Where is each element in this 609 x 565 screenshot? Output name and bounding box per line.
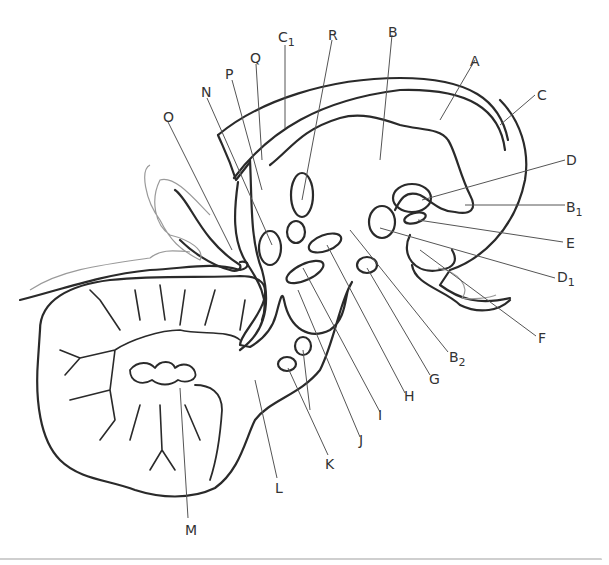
label-P: P [225, 67, 233, 81]
label-text: H [404, 388, 415, 404]
label-text: C [537, 87, 547, 103]
cerebellum-outline [37, 276, 352, 497]
label-text: O [163, 109, 174, 125]
label-C: C [537, 88, 547, 102]
label-text: K [325, 456, 334, 472]
label-text: M [185, 522, 197, 538]
label-C1: C1 [278, 30, 295, 48]
label-text: B [566, 199, 576, 215]
label-subscript: 1 [568, 276, 575, 289]
label-text: L [275, 480, 283, 496]
label-B1: B1 [566, 200, 583, 218]
label-text: F [538, 330, 546, 346]
label-text: G [429, 371, 440, 387]
label-M: M [185, 523, 197, 537]
label-D: D [566, 153, 577, 167]
label-text: B [388, 24, 398, 40]
label-I: I [378, 408, 382, 422]
label-text: R [328, 27, 338, 43]
label-text: Q [250, 50, 261, 66]
label-Q: Q [250, 51, 261, 65]
label-K: K [325, 457, 334, 471]
label-text: D [557, 269, 568, 285]
corpus-callosum-upper [218, 78, 508, 140]
label-text: A [470, 53, 480, 69]
label-H: H [404, 389, 415, 403]
label-N: N [201, 85, 211, 99]
diagram-drawing [0, 0, 609, 565]
nucleus-h [306, 230, 343, 257]
dentate-nucleus [130, 362, 195, 385]
thalamus-outline [270, 116, 473, 213]
label-G: G [429, 372, 440, 386]
label-subscript: 1 [576, 206, 583, 219]
label-J: J [359, 433, 363, 447]
label-text: B [449, 349, 459, 365]
nucleus-d1 [369, 206, 395, 238]
label-text: C [278, 29, 288, 45]
structure-outlines [20, 78, 526, 497]
label-text: D [566, 152, 577, 168]
label-subscript: 2 [459, 356, 466, 369]
label-F: F [538, 331, 546, 345]
nucleus-n [259, 231, 281, 265]
label-text: N [201, 84, 211, 100]
nucleus-e [403, 210, 427, 225]
label-E: E [566, 236, 575, 250]
page-bottom-border [0, 558, 602, 560]
label-D1: D1 [557, 270, 575, 288]
label-text: I [378, 407, 382, 423]
label-text: P [225, 66, 233, 82]
anatomy-diagram: A B C C1 D B1 E D1 F B2 G H I J K L M N … [0, 0, 609, 565]
nucleus-r [291, 173, 313, 217]
label-text: J [359, 432, 363, 448]
label-subscript: 1 [288, 36, 295, 49]
nucleus-k1 [278, 357, 296, 371]
label-B2: B2 [449, 350, 466, 368]
cerebrum-outline [440, 100, 526, 301]
label-R: R [328, 28, 338, 42]
label-text: E [566, 235, 575, 251]
label-B: B [388, 25, 398, 39]
label-O: O [163, 110, 174, 124]
label-L: L [275, 481, 283, 495]
nucleus-small-1 [287, 221, 305, 243]
label-A: A [470, 54, 480, 68]
